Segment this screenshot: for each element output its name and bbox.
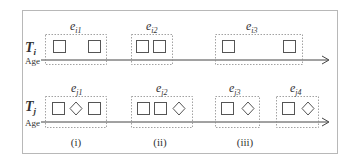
episode-ei3: ei3 xyxy=(216,19,303,65)
square-event-icon xyxy=(155,103,167,115)
axis-label-ti: Age xyxy=(25,56,40,66)
square-event-icon xyxy=(89,41,101,53)
square-event-icon xyxy=(284,41,296,53)
square-event-icon xyxy=(89,103,101,115)
square-event-icon xyxy=(223,41,235,53)
episode-ei2: ei2 xyxy=(132,19,173,65)
diamond-event-icon xyxy=(173,102,185,115)
square-event-icon xyxy=(137,41,149,53)
diamond-event-icon xyxy=(242,102,254,115)
axis-label-tj: Age xyxy=(25,118,40,128)
episode-box xyxy=(46,97,107,128)
diamond-event-icon xyxy=(302,102,314,115)
episode-label: ej4 xyxy=(290,81,302,97)
case-label-i: (i) xyxy=(71,136,82,149)
case-label-ii: (ii) xyxy=(153,136,167,149)
case-label-iii: (iii) xyxy=(237,136,254,149)
track-label-ti: Ti xyxy=(25,40,37,57)
square-event-icon xyxy=(154,41,166,53)
diamond-event-icon xyxy=(70,102,82,115)
track-row-ti: Ti Age ei1 ei2 ei3 xyxy=(25,19,329,66)
square-event-icon xyxy=(54,41,66,53)
episode-label: ej2 xyxy=(156,81,168,97)
track-row-tj: Tj Age ej1 ej2 ej3 xyxy=(25,81,329,128)
episode-label: ej3 xyxy=(229,81,241,97)
episode-label: ei3 xyxy=(246,19,258,35)
track-label-tj: Tj xyxy=(25,99,37,116)
episode-ej4: ej4 xyxy=(277,81,319,128)
episode-ej2: ej2 xyxy=(132,81,193,128)
episode-ei1: ei1 xyxy=(46,19,107,65)
square-event-icon xyxy=(283,103,295,115)
episode-alignment-diagram: Ti Age ei1 ei2 ei3 Tj Age xyxy=(0,0,353,160)
episode-ej3: ej3 xyxy=(216,81,260,128)
square-event-icon xyxy=(222,103,234,115)
episode-label: ei1 xyxy=(70,19,82,35)
square-event-icon xyxy=(138,103,150,115)
episode-label: ei2 xyxy=(146,19,158,35)
episode-label: ej1 xyxy=(71,81,83,97)
episode-box xyxy=(132,97,193,128)
square-event-icon xyxy=(53,103,65,115)
episode-ej1: ej1 xyxy=(46,81,107,128)
episode-box xyxy=(216,97,260,128)
